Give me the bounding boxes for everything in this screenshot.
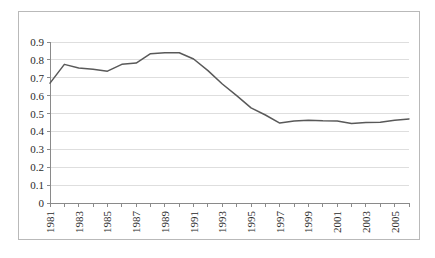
y-axis-labels: 0.90.80.70.60.50.40.30.20.10 — [30, 36, 50, 209]
y-axis-label: 0.3 — [30, 143, 44, 155]
y-axis-label: 0.4 — [30, 125, 44, 137]
x-tick-marks — [50, 203, 409, 207]
x-axis-label: 1999 — [302, 211, 314, 234]
x-axis-label: 2001 — [331, 211, 343, 233]
y-axis-label: 0.5 — [30, 108, 44, 120]
x-axis-label: 1985 — [101, 211, 113, 234]
x-axis-label: 1995 — [245, 211, 257, 234]
x-axis-label: 1983 — [73, 211, 85, 234]
y-axis-label: 0 — [39, 197, 45, 209]
x-axis-label: 2005 — [389, 211, 401, 234]
line-chart: 0.90.80.70.60.50.40.30.20.10198119831985… — [19, 12, 421, 241]
x-axis-label: 1997 — [274, 211, 286, 234]
x-axis-label: 1987 — [130, 211, 142, 234]
x-axis-label: 1981 — [44, 211, 56, 233]
data-series-line — [50, 53, 409, 124]
x-axis-label: 1989 — [159, 211, 171, 234]
y-axis-label: 0.2 — [30, 161, 44, 173]
chart-figure: 0.90.80.70.60.50.40.30.20.10198119831985… — [18, 11, 420, 240]
axes — [50, 42, 409, 203]
y-axis-label: 0.9 — [30, 36, 44, 48]
y-axis-label: 0.8 — [30, 54, 44, 66]
y-axis-label: 0.6 — [30, 90, 44, 102]
data-series-group — [50, 53, 409, 124]
y-gridlines — [50, 42, 409, 185]
x-axis-label: 1993 — [216, 211, 228, 234]
y-axis-label: 0.1 — [30, 179, 44, 191]
x-axis-labels: 1981198319851987198919911993199519971999… — [44, 211, 401, 234]
x-axis-label: 2003 — [360, 211, 372, 234]
y-axis-label: 0.7 — [30, 72, 44, 84]
x-axis-label: 1991 — [188, 211, 200, 233]
